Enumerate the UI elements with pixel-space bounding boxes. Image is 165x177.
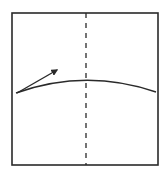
origami-diagram <box>0 0 165 177</box>
paper-square <box>12 13 158 165</box>
